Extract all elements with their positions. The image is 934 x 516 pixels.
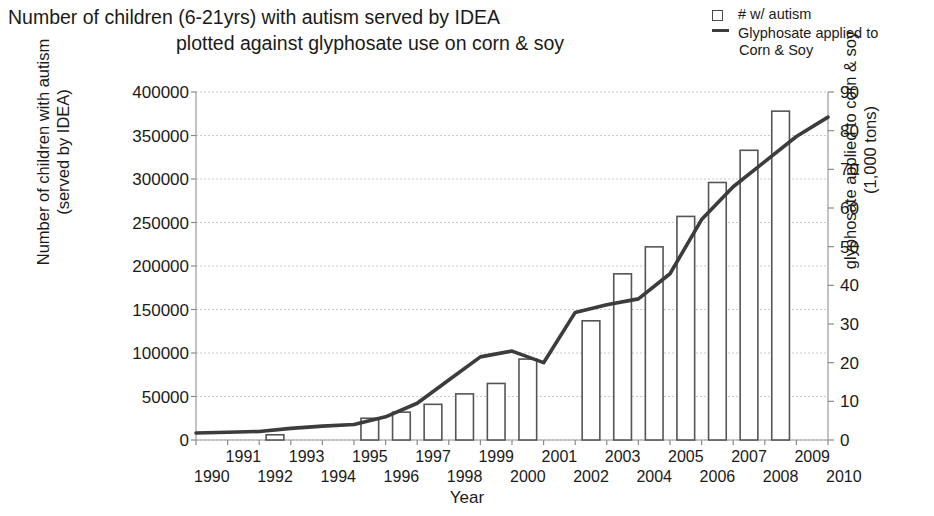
bar: [393, 412, 411, 440]
glyphosate-line: [196, 117, 828, 433]
bar: [709, 182, 727, 440]
bar: [424, 404, 442, 440]
bar: [266, 435, 284, 440]
bar: [614, 274, 632, 440]
bar: [519, 359, 537, 440]
bar: [456, 394, 474, 440]
autism-glyphosate-chart: Number of children (6-21yrs) with autism…: [0, 0, 934, 516]
bar: [772, 111, 790, 440]
bar: [487, 383, 505, 440]
bar: [740, 150, 758, 440]
bar: [582, 321, 600, 440]
plot-area: [0, 0, 934, 516]
bar: [645, 247, 663, 440]
